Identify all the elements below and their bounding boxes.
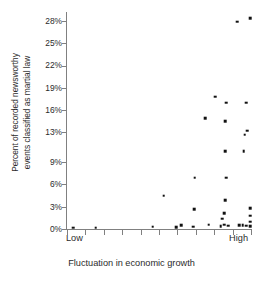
- y-axis-tick-label: 6%: [30, 180, 62, 188]
- data-point: [225, 176, 228, 179]
- y-axis-tick-mark: [62, 110, 66, 111]
- y-axis-tick-label: 25%: [30, 39, 62, 47]
- y-axis-line: [66, 12, 67, 230]
- y-axis-title-line-1: Percent of recorded newsworthy: [10, 53, 22, 172]
- y-axis-tick-label: 22%: [30, 61, 62, 69]
- y-axis-tick-mark: [62, 132, 66, 133]
- y-axis-tick-label: 9%: [30, 158, 62, 166]
- data-point: [245, 101, 248, 104]
- data-point: [249, 207, 252, 210]
- data-point: [193, 208, 196, 211]
- data-point: [151, 225, 154, 228]
- data-point: [241, 224, 244, 227]
- data-point: [221, 217, 224, 220]
- y-axis-tick-label: 13%: [30, 128, 62, 136]
- data-point: [207, 223, 210, 226]
- y-axis-tick-mark: [62, 229, 66, 230]
- y-axis-tick-mark: [62, 184, 66, 185]
- data-point: [162, 194, 165, 197]
- y-axis-tick-mark: [62, 43, 66, 44]
- y-axis-tick-mark: [62, 66, 66, 67]
- y-axis-tick-label: 0%: [30, 225, 62, 233]
- data-point: [224, 199, 227, 202]
- scatter-chart: Percent of recorded newsworthy events cl…: [0, 0, 263, 282]
- data-point: [249, 214, 252, 217]
- data-point: [219, 225, 222, 228]
- data-point: [227, 224, 230, 227]
- plot-area: [66, 12, 252, 230]
- data-point: [223, 223, 226, 226]
- y-axis-tick-mark: [62, 162, 66, 163]
- data-point: [246, 130, 249, 133]
- x-axis-high-label: High: [229, 233, 248, 244]
- data-point: [72, 226, 75, 229]
- data-point: [194, 176, 197, 179]
- y-axis-tick-labels: 0%3%6%9%13%16%19%22%25%28%: [30, 0, 62, 282]
- data-point: [236, 20, 239, 23]
- data-point: [249, 17, 252, 20]
- data-point: [224, 150, 227, 153]
- y-axis-tick-label: 28%: [30, 17, 62, 25]
- data-point: [192, 225, 195, 228]
- data-point: [243, 133, 246, 136]
- data-point: [245, 224, 248, 227]
- data-point: [175, 226, 178, 229]
- data-point: [238, 224, 241, 227]
- data-point: [242, 150, 245, 153]
- x-axis-title: Fluctuation in economic growth: [0, 258, 263, 268]
- y-axis-tick-label: 16%: [30, 106, 62, 114]
- x-axis-low-label: Low: [66, 233, 83, 244]
- data-point: [223, 212, 226, 215]
- x-axis-category-labels: Low High: [66, 233, 256, 247]
- y-axis-tick-mark: [62, 207, 66, 208]
- data-point: [180, 224, 183, 227]
- y-axis-tick-mark: [62, 88, 66, 89]
- data-point: [225, 101, 228, 104]
- y-axis-tick-mark: [62, 21, 66, 22]
- data-point: [224, 120, 227, 123]
- data-point: [249, 225, 252, 228]
- data-point: [94, 226, 97, 229]
- data-point: [214, 95, 217, 98]
- y-axis-tick-label: 19%: [30, 84, 62, 92]
- y-axis-tick-label: 3%: [30, 203, 62, 211]
- data-point: [249, 220, 252, 223]
- data-point: [204, 117, 207, 120]
